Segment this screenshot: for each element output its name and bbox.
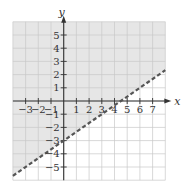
x-tick-label: 7 [149, 104, 155, 115]
inequality-graph: −3−2−1123456754321−1−2−3−4−5xy [0, 0, 184, 185]
x-tick-label: 4 [111, 104, 117, 115]
y-tick-label: −3 [45, 135, 60, 146]
x-axis-arrow-icon [164, 99, 171, 104]
y-tick-label: −4 [45, 148, 60, 159]
x-tick-label: 1 [73, 104, 79, 115]
x-tick-label: 6 [137, 104, 143, 115]
y-tick-label: −2 [45, 122, 60, 133]
y-tick-label: 1 [53, 82, 59, 93]
y-tick-label: 5 [53, 30, 59, 41]
x-tick-label: 3 [99, 104, 105, 115]
y-tick-label: 4 [53, 43, 59, 54]
x-tick-label: 2 [86, 104, 92, 115]
y-tick-label: −5 [45, 162, 60, 173]
x-axis-label: x [174, 95, 181, 108]
y-tick-label: 2 [53, 69, 59, 80]
y-tick-label: −1 [45, 109, 60, 120]
y-tick-label: 3 [53, 56, 59, 67]
x-tick-label: 5 [124, 104, 130, 115]
y-axis-label: y [58, 6, 66, 19]
